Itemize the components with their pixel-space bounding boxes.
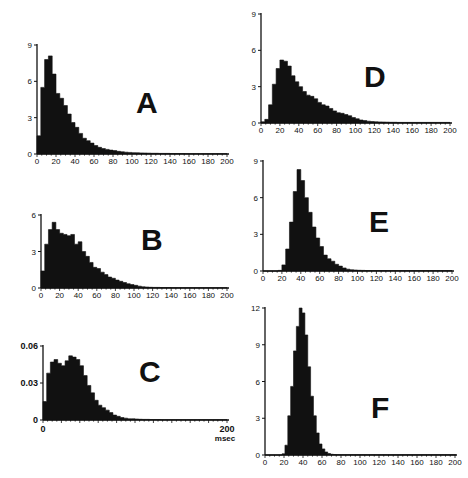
- y-tick-label: 3: [256, 414, 261, 423]
- y-tick-label: 9: [254, 157, 259, 166]
- y-tick-label: 6: [254, 194, 259, 203]
- x-tick-label: 180: [426, 274, 440, 283]
- y-tick-label: 6: [32, 211, 37, 220]
- x-tick-label: 0: [39, 291, 44, 300]
- x-tick-label: 200: [445, 274, 459, 283]
- x-tick-label: 100: [127, 291, 141, 300]
- y-tick-label: 0: [32, 284, 37, 293]
- panel-a: 0204060801001201401601802000369A: [28, 41, 235, 166]
- x-tick-label: 60: [90, 157, 99, 166]
- x-tick-label: 40: [71, 157, 80, 166]
- x-tick-label: 200: [443, 126, 457, 135]
- x-tick-label: 180: [424, 126, 438, 135]
- x-tick-label: 140: [389, 274, 403, 283]
- y-tick-label: 3: [252, 83, 257, 92]
- y-tick-label: 12: [251, 304, 260, 313]
- histogram-bars: [37, 56, 227, 154]
- x-tick-label: 60: [315, 274, 324, 283]
- x-tick-label: 40: [296, 274, 305, 283]
- y-tick-label: 3: [32, 248, 37, 257]
- x-tick-label: 100: [349, 126, 363, 135]
- x-tick-label: 100: [125, 157, 139, 166]
- panel-e: 0204060801001201401601802000369E: [254, 157, 460, 283]
- x-tick-label: 160: [182, 157, 196, 166]
- x-tick-label: 40: [299, 458, 308, 467]
- x-tick-label: 0: [259, 126, 264, 135]
- panel-f: 020406080100120140160180200036912F: [251, 304, 462, 467]
- x-tick-label: 140: [391, 458, 405, 467]
- panel-label-d: D: [364, 60, 386, 93]
- x-tick-label: 20: [277, 274, 286, 283]
- histogram-figure: 0204060801001201401601802000369A02040608…: [0, 0, 468, 478]
- x-tick-label: 80: [337, 458, 346, 467]
- x-tick-label: 140: [387, 126, 401, 135]
- y-tick-label: 0: [256, 451, 261, 460]
- x-tick-label: 120: [372, 458, 386, 467]
- panel-label-e: E: [369, 205, 389, 238]
- histogram-bars: [263, 170, 452, 271]
- y-tick-label: 0: [252, 119, 257, 128]
- x-tick-label: 140: [163, 157, 177, 166]
- x-tick-label: 160: [183, 291, 197, 300]
- y-tick-label: 0: [28, 150, 33, 159]
- x-tick-label: 80: [334, 274, 343, 283]
- y-tick-label: 0: [33, 415, 38, 425]
- x-tick-label: 120: [368, 126, 382, 135]
- x-tick-label: 200: [219, 424, 234, 434]
- x-tick-label: 180: [202, 291, 216, 300]
- x-tick-label: 60: [92, 291, 101, 300]
- y-tick-label: 6: [256, 378, 261, 387]
- x-tick-label: 100: [351, 274, 365, 283]
- x-tick-label: 80: [332, 126, 341, 135]
- x-tick-label: 40: [294, 126, 303, 135]
- panel-label-f: F: [371, 391, 389, 424]
- x-tick-label: 160: [406, 126, 420, 135]
- y-tick-label: 0.06: [20, 341, 38, 351]
- x-tick-label: 140: [165, 291, 179, 300]
- x-tick-label: 0: [40, 424, 45, 434]
- x-tick-label: 160: [408, 274, 422, 283]
- y-tick-label: 6: [28, 77, 33, 86]
- y-tick-label: 0: [254, 267, 259, 276]
- panel-c: 020000.030.06msecC: [20, 341, 235, 443]
- y-tick-label: 3: [28, 114, 33, 123]
- x-tick-label: 80: [111, 291, 120, 300]
- x-tick-label: 0: [35, 157, 40, 166]
- x-tick-label: 60: [313, 126, 322, 135]
- histogram-bars: [261, 60, 450, 123]
- x-tick-label: 0: [261, 274, 266, 283]
- y-tick-label: 3: [254, 230, 259, 239]
- x-tick-label: 20: [52, 157, 61, 166]
- y-tick-label: 9: [256, 341, 261, 350]
- y-tick-label: 6: [252, 46, 257, 55]
- x-tick-label: 160: [410, 458, 424, 467]
- x-tick-label: 0: [263, 458, 268, 467]
- x-tick-label: 200: [220, 157, 234, 166]
- x-tick-label: 80: [109, 157, 118, 166]
- y-tick-label: 9: [252, 10, 257, 19]
- panel-b: 020406080100120140160180200036B: [32, 211, 235, 300]
- x-tick-label: 120: [144, 157, 158, 166]
- x-tick-label: 20: [280, 458, 289, 467]
- x-tick-label: 20: [275, 126, 284, 135]
- x-tick-label: 120: [370, 274, 384, 283]
- y-tick-label: 9: [28, 41, 33, 50]
- x-tick-label: 20: [55, 291, 64, 300]
- x-tick-label: 180: [201, 157, 215, 166]
- x-tick-label: 60: [318, 458, 327, 467]
- panel-label-b: B: [141, 223, 163, 256]
- x-axis-unit-label: msec: [215, 434, 236, 443]
- panel-label-a: A: [136, 86, 158, 119]
- y-tick-label: 0.03: [20, 378, 38, 388]
- histogram-panels: 0204060801001201401601802000369A02040608…: [0, 0, 468, 478]
- histogram-bars: [265, 308, 456, 455]
- panel-label-c: C: [139, 355, 161, 388]
- x-tick-label: 200: [448, 458, 462, 467]
- x-tick-label: 100: [353, 458, 367, 467]
- x-tick-label: 200: [220, 291, 234, 300]
- x-tick-label: 120: [146, 291, 160, 300]
- panel-d: 0204060801001201401601802000369D: [252, 10, 458, 135]
- histogram-bars: [41, 222, 227, 288]
- x-tick-label: 180: [429, 458, 443, 467]
- x-tick-label: 40: [74, 291, 83, 300]
